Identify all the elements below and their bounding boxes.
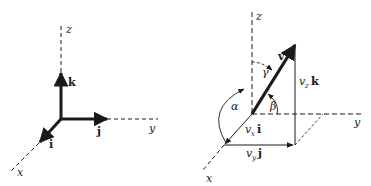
svg-text:k: k [311,75,319,88]
svg-text:i: i [257,123,261,136]
y-axis-label: y [148,122,156,135]
k-label: k [68,76,76,89]
v-label: v [277,50,285,63]
i-label: i [49,138,53,151]
gamma-label: γ [262,66,269,79]
x-axis [10,143,39,172]
velocity-components-diagram: z y x v γ α β v z k v x i v y j [203,10,362,185]
vector-components-figure: z y x k j i z y x v γ α β v z k [0,0,371,186]
x-axis-label: x [206,172,213,185]
svg-text:z: z [304,82,309,90]
projection-dashed [295,114,323,145]
y-axis-label: y [353,116,361,129]
svg-text:x: x [251,130,255,138]
j-label: j [96,125,101,138]
z-axis-label: z [255,10,262,23]
x-axis-label: x [17,166,24,179]
vz-label: v z k [299,75,319,90]
unit-vector-diagram: z y x k j i [10,23,158,179]
x-axis [203,145,224,170]
beta-label: β [269,100,276,113]
svg-text:y: y [251,154,257,162]
svg-text:j: j [257,147,262,160]
z-axis-label: z [65,23,72,36]
alpha-label: α [231,100,239,113]
vx-label: v x i [245,123,261,138]
vy-label: v y j [246,147,262,162]
alpha-arc [219,89,244,143]
